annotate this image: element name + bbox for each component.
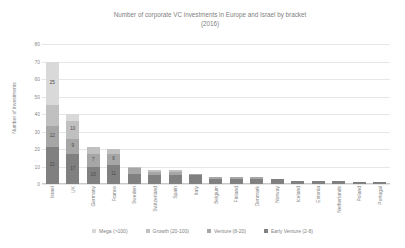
bar-segment[interactable] [128, 174, 141, 185]
bar-segment[interactable] [250, 179, 263, 184]
x-axis-tick-label: Germany [90, 186, 96, 207]
bar-column[interactable] [124, 44, 144, 184]
legend-swatch-icon [264, 229, 268, 233]
bar-segment[interactable] [46, 105, 59, 126]
y-axis-title: Number of investments [11, 68, 17, 148]
bar-segment[interactable] [66, 114, 79, 121]
bar-segment[interactable]: 21 [46, 147, 59, 184]
chart-container: Number of corporate VC investments in Eu… [0, 0, 405, 248]
bar-segment[interactable]: 11 [107, 165, 120, 184]
bar-segment[interactable] [373, 182, 386, 184]
bar-stack: 107 [87, 147, 100, 184]
bar-segment[interactable] [189, 174, 202, 176]
bar-stack [230, 177, 243, 184]
bar-segment[interactable] [312, 181, 325, 185]
bar-column[interactable]: 211225 [42, 44, 62, 184]
bar-segment[interactable] [271, 179, 284, 184]
legend-label: Mega (>100) [99, 228, 128, 234]
x-axis-tick-cell: Spain [165, 186, 185, 222]
bar-column[interactable] [329, 44, 349, 184]
plot-area: 21122517910107116 [42, 44, 390, 184]
bar-stack [148, 170, 161, 184]
bar-segment[interactable] [209, 179, 222, 184]
bar-segment[interactable] [87, 147, 100, 154]
chart-title-line-2: (2016) [60, 19, 360, 28]
x-axis-tick-cell: Poland [349, 186, 369, 222]
bar-segment[interactable] [148, 175, 161, 184]
bar-segment[interactable]: 10 [87, 167, 100, 185]
bar-stack [169, 170, 182, 184]
bar-column[interactable] [247, 44, 267, 184]
bar-column[interactable] [185, 44, 205, 184]
bar-column[interactable]: 107 [83, 44, 103, 184]
bar-segment[interactable]: 17 [66, 154, 79, 184]
legend-swatch-icon [207, 229, 211, 233]
bar-segment[interactable]: 10 [66, 121, 79, 139]
bar-column[interactable] [308, 44, 328, 184]
y-axis-tick-label: 40 [20, 111, 40, 117]
bar-segment[interactable] [291, 181, 304, 185]
bar-column[interactable] [165, 44, 185, 184]
bar-segment[interactable]: 6 [107, 154, 120, 165]
bar-column[interactable] [288, 44, 308, 184]
x-axis-tick-label: Italy [193, 186, 199, 195]
bar-series-group: 21122517910107116 [42, 44, 390, 184]
bar-column[interactable] [144, 44, 164, 184]
bar-segment[interactable]: 12 [46, 126, 59, 147]
x-axis-tick-cell: Norway [267, 186, 287, 222]
bar-stack [128, 167, 141, 185]
x-axis-tick-cell: Sweden [124, 186, 144, 222]
bar-segment[interactable] [230, 179, 243, 184]
bar-segment[interactable] [169, 172, 182, 176]
bar-segment[interactable] [353, 182, 366, 184]
bar-segment[interactable] [169, 170, 182, 172]
legend-item[interactable]: Venture (8-20) [207, 228, 246, 234]
bar-column[interactable]: 116 [103, 44, 123, 184]
legend-swatch-icon [146, 229, 150, 233]
bar-segment[interactable] [332, 181, 345, 185]
x-axis-tick-label: Denmark [254, 186, 260, 206]
bar-segment-label: 21 [50, 163, 55, 168]
bar-segment[interactable]: 9 [66, 139, 79, 155]
bar-segment[interactable] [169, 175, 182, 184]
legend-item[interactable]: Mega (>100) [92, 228, 128, 234]
bar-segment[interactable] [148, 170, 161, 172]
bar-column[interactable] [370, 44, 390, 184]
bar-segment[interactable]: 25 [46, 62, 59, 106]
bar-stack [312, 181, 325, 185]
bar-segment[interactable] [128, 167, 141, 169]
bar-stack [250, 177, 263, 184]
bar-segment[interactable] [250, 177, 263, 179]
y-axis-tick-label: 10 [20, 164, 40, 170]
legend-label: Growth (20-100) [153, 228, 189, 234]
x-axis-tick-label: UK [70, 186, 76, 193]
x-axis-tick-cell: France [103, 186, 123, 222]
y-axis-tick-label: 20 [20, 146, 40, 152]
y-axis-tick-label: 30 [20, 129, 40, 135]
bar-segment[interactable] [209, 177, 222, 179]
bar-segment[interactable]: 7 [87, 154, 100, 166]
bar-segment[interactable] [107, 149, 120, 154]
bar-stack [291, 181, 304, 185]
x-axis-tick-label: Belgium [213, 186, 219, 204]
bar-segment[interactable] [189, 175, 202, 184]
legend-item[interactable]: Growth (20-100) [146, 228, 189, 234]
x-axis-tick-cell: Estonia [308, 186, 328, 222]
bar-segment[interactable] [148, 172, 161, 176]
bar-segment[interactable] [128, 168, 141, 173]
legend-item[interactable]: Early Venture (2-8) [264, 228, 313, 234]
bar-column[interactable] [206, 44, 226, 184]
bar-stack [373, 182, 386, 184]
bar-column[interactable]: 17910 [62, 44, 82, 184]
chart-title-line-1: Number of corporate VC investments in Eu… [60, 10, 360, 19]
x-axis-tick-label: Portugal [377, 186, 383, 205]
y-axis-tick-label: 0 [20, 181, 40, 187]
bar-column[interactable] [349, 44, 369, 184]
bar-stack [332, 181, 345, 185]
x-axis-tick-label: Estonia [315, 186, 321, 203]
bar-column[interactable] [267, 44, 287, 184]
bar-column[interactable] [226, 44, 246, 184]
x-axis-tick-cell: Switzerland [144, 186, 164, 222]
bar-segment[interactable] [230, 177, 243, 179]
x-axis-tick-label: Iceland [295, 186, 301, 202]
